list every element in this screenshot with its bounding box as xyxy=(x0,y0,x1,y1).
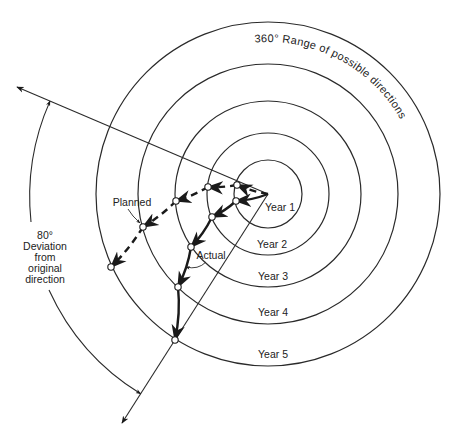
actual-segment-2 xyxy=(212,201,236,217)
actual-segment-1 xyxy=(236,194,268,201)
planned-segment-1 xyxy=(237,185,268,194)
planned-segment-5 xyxy=(111,227,143,267)
planned-node-year-1 xyxy=(234,182,240,188)
actual-node-year-2 xyxy=(209,214,215,220)
deviation-arc-upper xyxy=(30,101,50,222)
planned-node-year-2 xyxy=(205,184,211,190)
actual-node-year-5 xyxy=(172,337,178,343)
actual-segment-5 xyxy=(175,287,179,340)
planned-segment-3 xyxy=(176,187,208,201)
ring-label-year-1: Year 1 xyxy=(265,201,295,213)
planned-label: Planned xyxy=(113,196,152,208)
deviation-label: 80° Deviation from original direction xyxy=(23,229,67,285)
original-direction-ray xyxy=(17,87,268,194)
deviation-line-5: direction xyxy=(25,273,65,285)
ring-label-year-4: Year 4 xyxy=(258,306,288,318)
actual-pointer-arrow xyxy=(186,262,206,268)
planned-node-year-4 xyxy=(140,224,146,230)
ring-label-year-2: Year 2 xyxy=(257,238,287,250)
direction-deviation-diagram: 360° Range of possible directions Year 1… xyxy=(0,0,453,440)
planned-pointer-arrow xyxy=(128,209,140,223)
planned-node-year-3 xyxy=(173,198,179,204)
ring-label-year-3: Year 3 xyxy=(258,270,288,282)
actual-segment-3 xyxy=(191,217,212,247)
planned-segment-2 xyxy=(208,185,237,187)
range-of-directions-text: 360° Range of possible directions xyxy=(254,32,409,121)
actual-label: Actual xyxy=(196,249,225,261)
planned-node-year-5 xyxy=(108,264,114,270)
ring-labels: Year 1 Year 2 Year 3 Year 4 Year 5 xyxy=(257,201,295,360)
deviation-arc-lower xyxy=(49,290,141,394)
range-of-directions-label: 360° Range of possible directions xyxy=(254,32,409,121)
actual-segment-4 xyxy=(178,247,191,287)
actual-node-year-1 xyxy=(233,198,239,204)
ring-label-year-5: Year 5 xyxy=(258,348,288,360)
actual-node-year-3 xyxy=(188,244,194,250)
actual-node-year-4 xyxy=(175,284,181,290)
